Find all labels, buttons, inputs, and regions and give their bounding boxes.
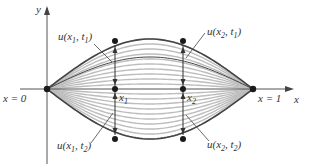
label-u-x2-t2: u(x2, t2) <box>207 139 241 153</box>
string-curve <box>47 89 253 114</box>
x2-label: x2 <box>187 92 196 106</box>
y-axis-label: y <box>36 4 41 15</box>
left-endpoint <box>44 86 50 92</box>
point-x2 <box>180 86 186 92</box>
right-end-label: x = 1 <box>258 93 281 104</box>
label-u-x1-t1: u(x1, t1) <box>58 31 92 45</box>
point-u-x2-t2 <box>180 136 186 142</box>
point-u-x1-t2 <box>112 136 118 142</box>
left-end-label: x = 0 <box>3 93 26 104</box>
label-u-x1-t2: u(x1, t2) <box>57 140 91 154</box>
x-axis-arrow-icon <box>285 86 294 92</box>
leader-u-x1-t2 <box>91 113 113 143</box>
label-u-x2-t1: u(x2, t1) <box>207 26 241 40</box>
vibrating-string-diagram <box>0 0 320 164</box>
point-x1 <box>112 86 118 92</box>
x-axis-label: x <box>294 94 299 105</box>
point-u-x1-t1 <box>112 38 118 44</box>
x1-label: x1 <box>119 92 128 106</box>
point-u-x2-t1 <box>180 38 186 44</box>
y-axis-arrow-icon <box>44 6 50 15</box>
right-endpoint <box>250 86 256 92</box>
string-curve <box>47 64 253 89</box>
diagram-canvas: y x x = 0 x = 1 x1 x2 u(x1, t1) u(x2, t1… <box>0 0 320 164</box>
